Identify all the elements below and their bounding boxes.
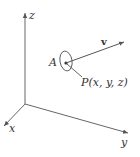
y-axis-label: y <box>120 136 128 149</box>
z-axis-label: z <box>28 9 35 22</box>
region-a-label: A <box>48 56 57 69</box>
y-axis <box>25 104 128 133</box>
diagram-svg: z x y A v P(x, y, z) <box>0 0 140 157</box>
vector-v-label: v <box>100 36 108 47</box>
point-p-label: P(x, y, z) <box>80 76 128 89</box>
x-axis-label: x <box>9 122 16 135</box>
diagram-canvas: z x y A v P(x, y, z) <box>0 0 140 157</box>
vector-v-arrow <box>66 42 124 63</box>
